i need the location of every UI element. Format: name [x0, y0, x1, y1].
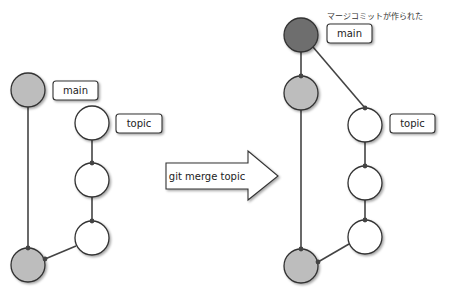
connector-dot — [26, 246, 31, 251]
left-diagram: main topic — [11, 73, 162, 282]
connector-dot — [299, 247, 304, 252]
connector-dot — [90, 219, 95, 224]
merge-command-label: git merge topic — [169, 171, 245, 182]
svg-text:topic: topic — [127, 118, 152, 129]
svg-text:topic: topic — [400, 118, 425, 129]
merge-command-arrow: git merge topic — [166, 151, 278, 200]
main-commit-node — [11, 73, 45, 107]
git-merge-diagram: main topic git merge topic — [0, 0, 450, 288]
connector-dot — [43, 257, 48, 262]
topic-branch-label: topic — [116, 114, 162, 133]
connector-dot — [90, 161, 95, 166]
svg-text:main: main — [63, 85, 88, 96]
topic-commit-node-1 — [75, 221, 109, 255]
right-diagram: マージコミットが作られた main topic — [284, 11, 435, 283]
svg-text:main: main — [337, 28, 362, 39]
topic-commit-node-1 — [348, 220, 382, 254]
topic-commit-node-2 — [348, 166, 382, 200]
merge-commit-caption: マージコミットが作られた — [327, 11, 423, 21]
topic-commit-node-3 — [348, 108, 382, 142]
main-branch-label: main — [53, 81, 98, 100]
main-branch-label: main — [327, 24, 372, 43]
base-commit-node — [11, 248, 45, 282]
branch-edge — [45, 246, 76, 259]
topic-commit-node-2 — [75, 163, 109, 197]
merge-topic-edge — [313, 47, 365, 108]
merge-commit-node — [284, 18, 318, 52]
topic-commit-node-3 — [75, 106, 109, 140]
connector-dot — [316, 260, 321, 265]
connector-dot — [299, 74, 304, 79]
base-commit-node — [284, 249, 318, 283]
connector-dot — [363, 164, 368, 169]
main-commit-node — [284, 76, 318, 110]
branch-edge — [318, 244, 349, 262]
connector-dot — [363, 218, 368, 223]
topic-branch-label: topic — [390, 114, 435, 133]
connector-dot — [363, 106, 368, 111]
